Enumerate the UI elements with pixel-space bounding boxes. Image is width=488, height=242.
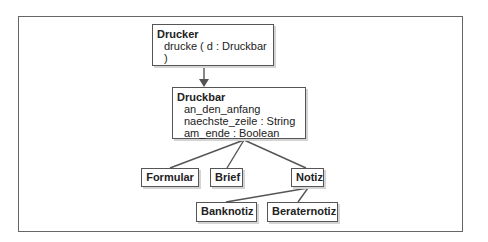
class-name-notiz: Notiz bbox=[296, 171, 323, 183]
class-member: naechste_zeile : String bbox=[177, 115, 301, 127]
inherit-line-banknotiz bbox=[226, 188, 308, 202]
class-name-drucker: Drucker bbox=[157, 28, 269, 40]
class-box-beraternotiz: Beraternotiz bbox=[267, 202, 338, 222]
class-name-druckbar: Druckbar bbox=[177, 91, 301, 103]
class-box-drucker: Drucker drucke ( d : Druckbar ) bbox=[152, 24, 274, 66]
class-name-brief: Brief bbox=[215, 171, 240, 183]
class-box-notiz: Notiz bbox=[291, 168, 324, 187]
class-box-druckbar: Druckbar an_den_anfang naechste_zeile : … bbox=[172, 87, 306, 139]
class-member: an_den_anfang bbox=[177, 103, 301, 115]
class-member: am_ende : Boolean bbox=[177, 127, 301, 139]
class-box-formular: Formular bbox=[141, 168, 199, 187]
class-box-brief: Brief bbox=[210, 168, 243, 187]
class-name-banknotiz: Banknotiz bbox=[201, 205, 254, 217]
class-name-beraternotiz: Beraternotiz bbox=[272, 205, 336, 217]
class-box-banknotiz: Banknotiz bbox=[196, 202, 257, 222]
inherit-line-notiz bbox=[244, 140, 306, 168]
class-name-formular: Formular bbox=[146, 171, 194, 183]
inherit-line-brief bbox=[227, 140, 244, 168]
inherit-line-formular bbox=[170, 140, 244, 168]
class-member: drucke ( d : Druckbar ) bbox=[157, 40, 269, 64]
